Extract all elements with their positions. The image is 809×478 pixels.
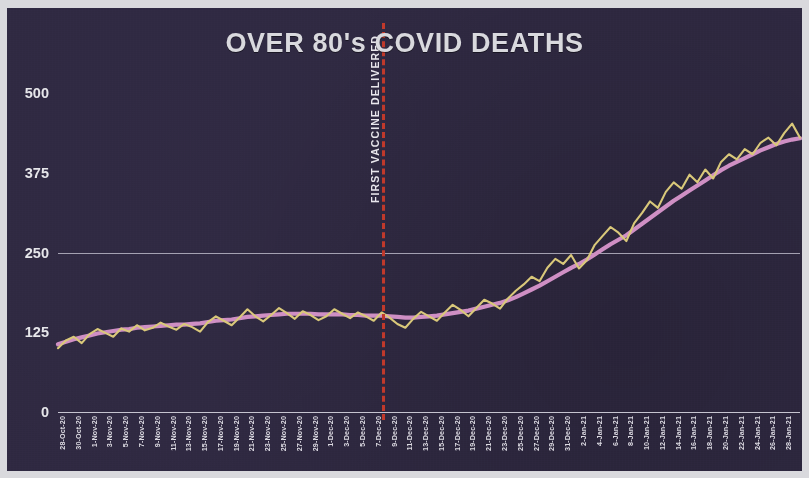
y-axis-tick-0: 0 — [41, 404, 49, 420]
x-axis-tick-label: 13-Nov-20 — [184, 416, 193, 451]
x-axis-tick-label: 9-Nov-20 — [153, 416, 162, 447]
x-axis-tick-label: 28-Oct-20 — [58, 416, 67, 450]
x-axis-tick-label: 7-Nov-20 — [137, 416, 146, 447]
x-axis-tick-label: 17-Dec-20 — [453, 416, 462, 451]
gridline-0 — [58, 412, 800, 413]
first-vaccine-delivered-label: FIRST VACCINE DELIVERED — [369, 35, 381, 203]
x-axis-tick-label: 10-Jan-21 — [642, 416, 651, 450]
first-vaccine-delivered-marker: FIRST VACCINE DELIVERED — [382, 23, 385, 420]
x-axis-tick-label: 25-Nov-20 — [279, 416, 288, 451]
x-axis-tick-label: 21-Dec-20 — [484, 416, 493, 451]
x-axis-tick-label: 16-Jan-21 — [689, 416, 698, 450]
series-svg — [58, 93, 800, 412]
x-axis-tick-label: 30-Jan-21 — [800, 416, 802, 450]
x-axis-tick-label: 5-Nov-20 — [121, 416, 130, 447]
x-axis-tick-label: 23-Nov-20 — [263, 416, 272, 451]
y-axis-tick-125: 125 — [25, 324, 49, 340]
x-axis-tick-label: 13-Dec-20 — [421, 416, 430, 451]
x-axis-tick-label: 23-Dec-20 — [500, 416, 509, 451]
x-axis-tick-label: 27-Dec-20 — [532, 416, 541, 451]
x-axis-tick-label: 24-Jan-21 — [753, 416, 762, 450]
x-axis-tick-label: 7-Dec-20 — [374, 416, 383, 447]
x-axis-tick-label: 17-Nov-20 — [216, 416, 225, 451]
x-axis-tick-label: 4-Jan-21 — [595, 416, 604, 446]
x-axis-tick-label: 8-Jan-21 — [626, 416, 635, 446]
x-axis-tick-label: 9-Dec-20 — [390, 416, 399, 447]
x-axis-tick-label: 29-Dec-20 — [547, 416, 556, 451]
x-axis-tick-label: 15-Dec-20 — [437, 416, 446, 451]
x-axis-tick-label: 21-Nov-20 — [247, 416, 256, 451]
x-axis-tick-label: 2-Jan-21 — [579, 416, 588, 446]
x-axis-tick-label: 25-Dec-20 — [516, 416, 525, 451]
chart-panel: OVER 80's COVID DEATHS 0125250375500 FIR… — [7, 8, 802, 471]
series-layer — [58, 93, 800, 412]
chart-title: OVER 80's COVID DEATHS — [7, 28, 802, 59]
x-axis-tick-label: 18-Jan-21 — [705, 416, 714, 450]
x-axis-tick-label: 19-Nov-20 — [232, 416, 241, 451]
x-axis-tick-label: 19-Dec-20 — [468, 416, 477, 451]
y-axis-tick-250: 250 — [25, 245, 49, 261]
trend-series-line — [58, 138, 800, 344]
x-axis-tick-label: 15-Nov-20 — [200, 416, 209, 451]
x-axis-tick-label: 14-Jan-21 — [674, 416, 683, 450]
x-axis-tick-label: 1-Nov-20 — [90, 416, 99, 447]
x-axis-tick-label: 11-Dec-20 — [405, 416, 414, 450]
x-axis-tick-label: 20-Jan-21 — [721, 416, 730, 450]
x-axis-tick-label: 12-Jan-21 — [658, 416, 667, 450]
x-axis-tick-label: 1-Dec-20 — [326, 416, 335, 447]
x-axis-tick-label: 26-Jan-21 — [768, 416, 777, 450]
x-axis-tick-label: 11-Nov-20 — [169, 416, 178, 451]
x-axis-tick-label: 30-Oct-20 — [74, 416, 83, 450]
x-axis-tick-label: 6-Jan-21 — [611, 416, 620, 446]
x-axis-tick-label: 29-Nov-20 — [311, 416, 320, 451]
x-axis-tick-label: 3-Dec-20 — [342, 416, 351, 447]
x-axis-tick-label: 3-Nov-20 — [105, 416, 114, 447]
chart-screenshot: OVER 80's COVID DEATHS 0125250375500 FIR… — [0, 0, 809, 478]
x-axis-tick-label: 28-Jan-21 — [784, 416, 793, 450]
x-axis-tick-label: 22-Jan-21 — [737, 416, 746, 450]
x-axis-labels: 28-Oct-2030-Oct-201-Nov-203-Nov-205-Nov-… — [58, 416, 800, 471]
y-axis-tick-500: 500 — [25, 85, 49, 101]
y-axis-tick-375: 375 — [25, 165, 49, 181]
x-axis-tick-label: 31-Dec-20 — [563, 416, 572, 451]
plot-area: 0125250375500 FIRST VACCINE DELIVERED — [58, 93, 800, 412]
x-axis-tick-label: 27-Nov-20 — [295, 416, 304, 451]
x-axis-tick-label: 5-Dec-20 — [358, 416, 367, 447]
